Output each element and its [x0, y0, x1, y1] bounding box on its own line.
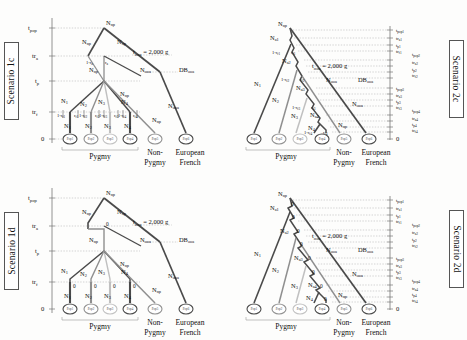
axis-label-tra2: tra2	[412, 60, 418, 66]
time-label-tpop: tpop	[28, 24, 37, 33]
branch-french-1d	[160, 242, 186, 303]
branch-pygmy-4-2d	[314, 292, 319, 303]
time-label-tpop-1d: tpop	[28, 194, 37, 203]
leaf-label-pop5: Pop5	[152, 137, 159, 141]
node-size-label-root: Nnp	[106, 19, 116, 27]
group-label-pygmy-2c: Pygmy	[275, 152, 297, 161]
branch-pygmy-4-2c	[314, 124, 320, 133]
zero-label-6-2d: 0	[312, 269, 315, 275]
axis-label-zero-2d: 0	[396, 305, 400, 312]
panel-scenario-1c: Scenario 1c tpop tra tp trf 0	[0, 0, 233, 170]
pygmy-size-1-2d: N1	[254, 250, 261, 258]
ooa-db-2d: DBooa	[358, 246, 373, 254]
panel-scenario-1d: Scenario 1d tpop tra tp trf 0	[0, 170, 233, 340]
zero-label-f3-1d: 0	[113, 283, 116, 289]
group-label-french-2: French	[179, 158, 200, 167]
leaf-label-pop5-2d: Pop5	[341, 307, 348, 311]
ooa-branch-size-2c: Nooa	[352, 100, 363, 108]
axis-label-tpop3: tpop3	[396, 86, 404, 92]
leaf-label-pop3-2d: Pop3	[297, 307, 304, 311]
ooa-size-2d: Nooa	[326, 246, 337, 254]
panel-scenario-2d: Scenario 2d	[234, 170, 467, 340]
ooa-size-1d: Nooa	[140, 236, 151, 244]
pygmy-size-3-1d: N3	[98, 268, 106, 276]
group-label-french-1-2c: European	[361, 148, 390, 157]
pygmy-size-1-1d: N1	[61, 267, 68, 275]
pygmy-size-2-2c: N2	[272, 96, 279, 104]
axis-label-tpop4: tpop4	[412, 108, 420, 114]
leaf-label-pop3-2c: Pop3	[297, 137, 304, 141]
pygmy-size-4-2d: N4	[306, 294, 314, 302]
pygmy-size-2-1d: N2	[80, 270, 87, 278]
tree-svg-1d: tpop tra tp trf 0 Nnp Nnp Nnp Nnp Nnp	[0, 170, 233, 340]
zero-label-f2-1d: 0	[94, 283, 97, 289]
leaf-label-pop5-1d: Pop5	[152, 307, 159, 311]
axis-label-tpop4-2d: tpop4	[412, 278, 420, 284]
group-label-nonpygmy-2-2d: Pygmy	[333, 328, 355, 337]
node-size-label-stem: Nnp	[89, 66, 99, 74]
leaf-label-pop6-2c: Pop6	[366, 137, 373, 141]
axis-label-trf4-2d: trf4	[412, 298, 418, 304]
node-size-nonpygmy2-1d: Nnp	[152, 286, 162, 294]
zero-label-2-2d: 0	[292, 214, 295, 220]
pygmy-size-2-2d: N2	[272, 266, 279, 274]
nonpygmy-size-2c: Nnp	[338, 121, 348, 129]
axis-label-tra1: tra1	[396, 36, 402, 42]
admix-rate-f1a-2c: 1-rf1	[272, 50, 280, 56]
zero-label-a-1d: 0	[106, 221, 109, 227]
branch-a-right-1d	[104, 226, 141, 246]
axis-label-tpop3-2d: tpop3	[396, 256, 404, 262]
axis-label-tpop2-2d: tpop2	[412, 222, 420, 228]
axis-label-tpop1: tpop1	[396, 28, 404, 34]
leaf-label-pop3: Pop3	[107, 137, 114, 141]
leaf-label-pop1: Pop1	[67, 137, 74, 141]
branch-pygmy-2	[91, 81, 104, 112]
group-label-nonpygmy-1-2c: Non-	[336, 148, 352, 157]
admix-rate-a-right: ra	[105, 60, 109, 66]
node-size-label-right: Nnp	[117, 38, 127, 46]
ooa-time-2c: tooa = 2,000 g	[312, 62, 348, 71]
axis-label-trf1: trf1	[396, 49, 402, 55]
leaf-label-pop2-2c: Pop2	[276, 137, 283, 141]
axis-label-tra1-2d: tra1	[396, 206, 402, 212]
group-label-nonpygmy-1-1d: Non-	[147, 318, 163, 327]
pygmy-size-4-1d: N4	[121, 268, 129, 276]
time-label-trf-1d: trf	[32, 278, 38, 287]
branch-pygmy-2-2d	[279, 238, 296, 303]
ooa-size-2c: Nooa	[326, 76, 337, 84]
anc-size-a3-2d: Na3	[294, 254, 304, 262]
group-label-french-1-1d: European	[175, 318, 204, 327]
group-label-french-1: European	[175, 148, 204, 157]
axis-label-tra2-2d: tra2	[412, 230, 418, 236]
leaf-label-pop6: Pop6	[183, 137, 190, 141]
ooa-db-2c: DBooa	[358, 76, 373, 84]
leaf-label-pop3-1d: Pop3	[107, 307, 114, 311]
leaf-label-pop4-2c: Pop4	[319, 137, 326, 141]
zero-label-4-2d: 0	[300, 241, 303, 247]
axis-label-trf3: trf3	[396, 105, 402, 111]
leaf-label-pop4-1d: Pop4	[127, 307, 134, 311]
tree-svg-2c: tpop1 tra1 tp1 trf1 tpop2 tra2 tp2 trf2 …	[234, 0, 467, 170]
group-label-french-1-2d: European	[361, 318, 390, 327]
time-label-tra: tra	[32, 52, 38, 61]
leaf-label-pop6-1d: Pop6	[183, 307, 190, 311]
zero-label-7-2d: 0	[320, 283, 323, 289]
pygmy-group-bracket-1d	[62, 317, 138, 320]
group-label-french-2-2c: French	[365, 158, 386, 167]
admix-rate-f2a-2c: 1-rf2	[281, 77, 289, 83]
ooa-db-1d: DBooa	[179, 236, 194, 244]
admix-rate-f4a: 1-rf4	[118, 113, 126, 119]
group-label-french-2-2d: French	[365, 328, 386, 337]
zero-label-3-2d: 0	[297, 228, 300, 234]
pygmy-size-1: N1	[61, 97, 68, 105]
axis-label-trf4: trf4	[412, 128, 418, 134]
admix-rate-f3a: 1-rf3	[99, 113, 107, 119]
pygmy-group-bracket	[62, 147, 138, 150]
axis-label-tpop2: tpop2	[412, 52, 420, 58]
time-label-trf: trf	[32, 108, 38, 117]
admix-rate-f2a: 1-rf2	[79, 113, 87, 119]
pygmy-size-1-2c: N1	[254, 80, 261, 88]
node-size-root-1d: Nnp	[106, 189, 116, 197]
pygmy-group-bracket-2c	[246, 147, 330, 150]
leaf-label-pop2-1d: Pop2	[88, 307, 95, 311]
